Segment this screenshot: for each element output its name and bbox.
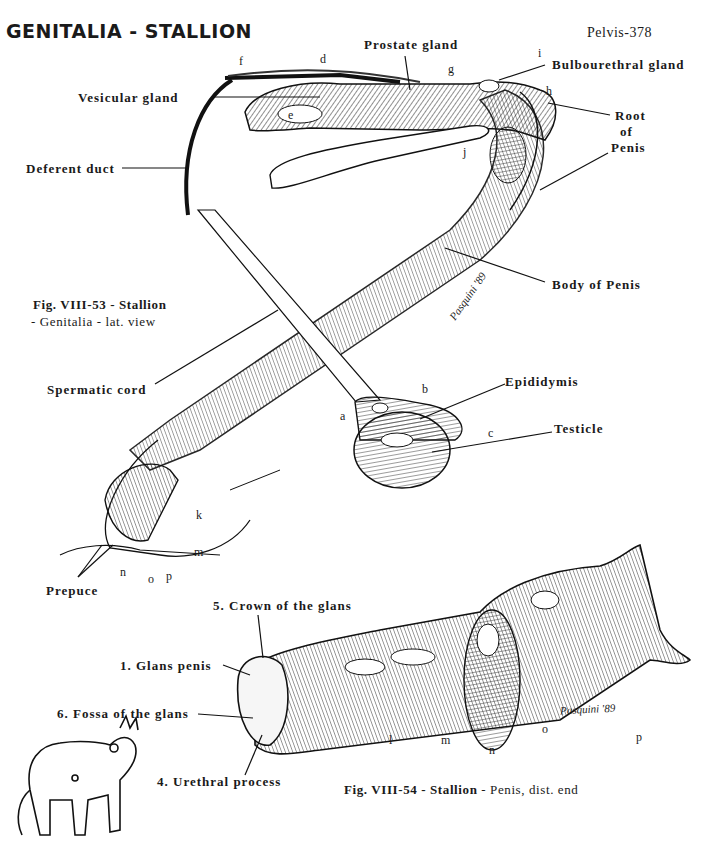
letter-d: d	[320, 52, 326, 67]
letter-p: p	[166, 569, 172, 584]
fig53-caption-line1: Fig. VIII-53 - Stallion	[33, 297, 166, 313]
letter-i: i	[538, 46, 541, 61]
letter-h: h	[546, 84, 552, 99]
letter-g: g	[448, 62, 454, 77]
label-prepuce: Prepuce	[46, 583, 98, 599]
label-epididymis: Epididymis	[505, 374, 579, 390]
letter-n-fig54: n	[489, 743, 495, 758]
label-root-of-penis-1: Root	[615, 108, 646, 124]
letter-a: a	[340, 409, 345, 424]
label-deferent-duct: Deferent duct	[26, 161, 115, 177]
label-prostate-gland: Prostate gland	[364, 37, 458, 53]
fig54-caption: Fig. VIII-54 - Stallion - Penis, dist. e…	[344, 782, 578, 798]
label-root-of-penis-3: Penis	[611, 140, 646, 156]
fig53-caption-line2: - Genitalia - lat. view	[31, 314, 156, 330]
label-body-of-penis: Body of Penis	[552, 277, 641, 293]
letter-j: j	[463, 145, 466, 160]
label-glans-penis: 1. Glans penis	[120, 658, 212, 674]
letter-o-fig54: o	[542, 722, 548, 737]
fig54-caption-bold: Fig. VIII-54 - Stallion	[344, 782, 477, 797]
letter-o: o	[148, 572, 154, 587]
letter-k: k	[196, 508, 202, 523]
cartoon-horse	[18, 716, 138, 835]
letter-m: m	[194, 545, 203, 560]
label-root-of-penis-2: of	[620, 124, 633, 140]
label-spermatic-cord: Spermatic cord	[47, 382, 147, 398]
label-bulbourethral-gland: Bulbourethral gland	[552, 57, 685, 73]
label-crown-of-glans: 5. Crown of the glans	[213, 598, 352, 614]
letter-e: e	[288, 108, 293, 123]
label-vesicular-gland: Vesicular gland	[78, 90, 179, 106]
label-fossa-of-glans: 6. Fossa of the glans	[57, 706, 189, 722]
deferent-duct-shape	[186, 80, 232, 215]
letter-l: l	[389, 733, 392, 748]
letter-b: b	[422, 382, 428, 397]
distal-penis-shape	[238, 545, 690, 754]
letter-f: f	[239, 54, 243, 69]
fig54-caption-rest: - Penis, dist. end	[477, 782, 578, 797]
testicle-shape	[354, 397, 462, 488]
letter-c: c	[488, 426, 493, 441]
letter-p-fig54: p	[636, 730, 642, 745]
label-urethral-process: 4. Urethral process	[157, 774, 281, 790]
letter-m-fig54: m	[441, 733, 450, 748]
letter-n: n	[120, 565, 126, 580]
label-testicle: Testicle	[554, 421, 603, 437]
